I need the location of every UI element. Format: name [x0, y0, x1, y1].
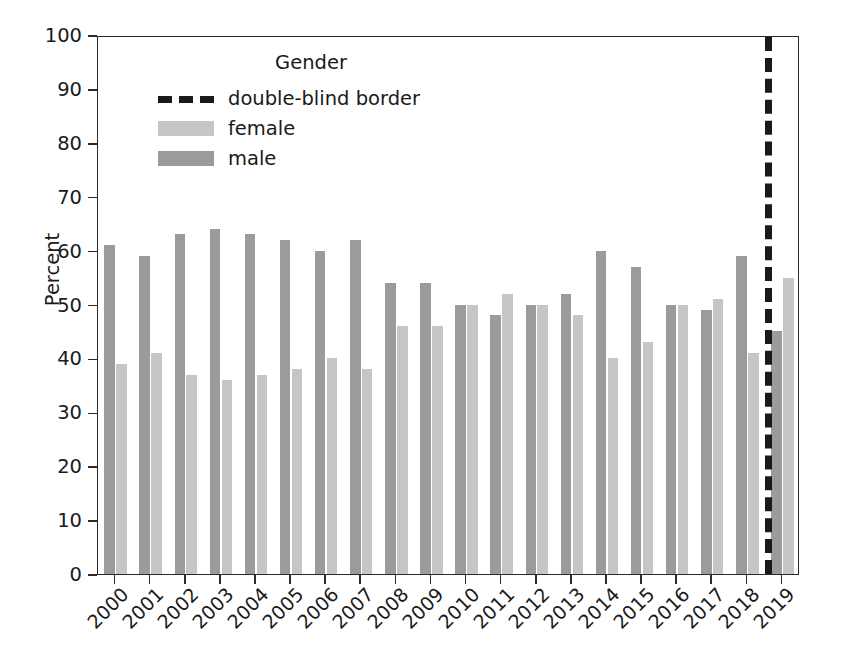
y-tick-mark	[88, 197, 97, 199]
y-tick-label: 40	[0, 349, 82, 369]
bar-female	[713, 299, 724, 574]
bar-female	[502, 294, 513, 574]
bar-female	[573, 315, 584, 574]
bar-male	[701, 310, 712, 574]
x-tick-mark	[535, 575, 537, 584]
y-tick-mark	[88, 574, 97, 576]
y-tick-mark	[88, 35, 97, 37]
y-tick-mark	[88, 251, 97, 253]
bar-male	[631, 267, 642, 574]
bar-male	[350, 240, 361, 574]
plot-area: Gender double-blind borderfemalemale	[97, 36, 799, 575]
legend-title: Gender	[158, 51, 428, 74]
bar-female	[748, 353, 759, 574]
y-tick-mark	[88, 520, 97, 522]
bar-female	[783, 278, 794, 574]
bar-male	[736, 256, 747, 574]
bar-male	[420, 283, 431, 574]
bar-female	[678, 305, 689, 575]
bar-female	[257, 375, 268, 574]
legend-entry-label: female	[228, 117, 295, 140]
bar-female	[292, 369, 303, 574]
bar-female	[222, 380, 233, 574]
y-tick-label: 0	[0, 565, 82, 585]
legend-entries: double-blind borderfemalemale	[158, 83, 428, 173]
bar-male	[210, 229, 221, 574]
y-tick-label: 100	[0, 26, 82, 46]
y-tick-mark	[88, 143, 97, 145]
bar-male	[175, 234, 186, 574]
bar-male	[245, 234, 256, 574]
bar-female	[397, 326, 408, 574]
x-tick-mark	[149, 575, 151, 584]
bar-female	[186, 375, 197, 574]
legend-entry: female	[158, 113, 428, 143]
chart-root: Percent 0102030405060708090100 Gender do…	[0, 0, 858, 652]
legend-entry-label: double-blind border	[228, 87, 420, 110]
x-tick-mark	[500, 575, 502, 584]
double-blind-border-line	[765, 37, 772, 574]
bar-male	[771, 331, 782, 574]
y-tick-label: 90	[0, 80, 82, 100]
y-tick-label: 20	[0, 457, 82, 477]
legend-entry: double-blind border	[158, 83, 428, 113]
y-tick-mark	[88, 359, 97, 361]
x-tick-mark	[184, 575, 186, 584]
bar-male	[561, 294, 572, 574]
legend-swatch-male	[158, 151, 214, 166]
bar-male	[104, 245, 115, 574]
y-tick-label: 60	[0, 242, 82, 262]
legend-dashed-line-icon	[158, 96, 214, 103]
bar-male	[385, 283, 396, 574]
y-tick-label: 10	[0, 511, 82, 531]
y-tick-label: 70	[0, 188, 82, 208]
bar-female	[537, 305, 548, 575]
y-tick-label: 80	[0, 134, 82, 154]
bar-male	[666, 305, 677, 575]
bar-male	[315, 251, 326, 574]
y-tick-mark	[88, 89, 97, 91]
y-tick-mark	[88, 305, 97, 307]
bar-female	[467, 305, 478, 575]
bar-male	[139, 256, 150, 574]
bar-female	[327, 358, 338, 574]
bar-female	[362, 369, 373, 574]
y-tick-mark	[88, 413, 97, 415]
bar-female	[643, 342, 654, 574]
legend: Gender double-blind borderfemalemale	[158, 51, 428, 173]
bar-female	[116, 364, 127, 574]
bar-male	[455, 305, 466, 575]
bar-female	[151, 353, 162, 574]
y-tick-mark	[88, 466, 97, 468]
y-tick-label: 50	[0, 296, 82, 316]
x-tick-mark	[114, 575, 116, 584]
bar-female	[432, 326, 443, 574]
bar-male	[280, 240, 291, 574]
x-tick-mark	[465, 575, 467, 584]
legend-entry: male	[158, 143, 428, 173]
legend-entry-label: male	[228, 147, 276, 170]
bar-female	[608, 358, 619, 574]
bar-male	[490, 315, 501, 574]
bar-male	[526, 305, 537, 575]
y-tick-label: 30	[0, 403, 82, 423]
bar-male	[596, 251, 607, 574]
legend-swatch-female	[158, 121, 214, 136]
